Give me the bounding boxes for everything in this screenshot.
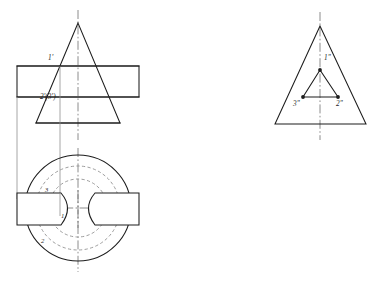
side-view-label-3: 3" <box>292 100 301 108</box>
side-view-label-2: 2" <box>336 100 344 108</box>
top-view-label-2: 2 <box>41 237 45 244</box>
side-view-label-1: 1" <box>324 54 332 62</box>
side-view-outer-triangle <box>275 26 366 124</box>
front-view: 1' 2'(3') <box>17 10 139 140</box>
side-view-vertex-dot-1 <box>318 68 322 72</box>
side-view-vertex-dot-3 <box>301 95 305 99</box>
side-view-vertex-dot-2 <box>336 95 340 99</box>
top-view: 3 1 2 <box>17 148 139 272</box>
cad-canvas: 1' 2'(3') <box>0 0 379 281</box>
top-view-label-1: 1 <box>61 212 64 219</box>
side-view-inner-triangle <box>303 70 338 97</box>
top-view-label-3: 3 <box>44 186 49 193</box>
top-view-right-notch-mask <box>89 193 140 225</box>
drawing-sheet: 1' 2'(3') <box>0 0 379 281</box>
front-view-label-1: 1' <box>48 54 54 62</box>
side-view: 1" 3" 2" <box>275 12 366 140</box>
front-view-label-2-3: 2'(3') <box>40 93 56 101</box>
